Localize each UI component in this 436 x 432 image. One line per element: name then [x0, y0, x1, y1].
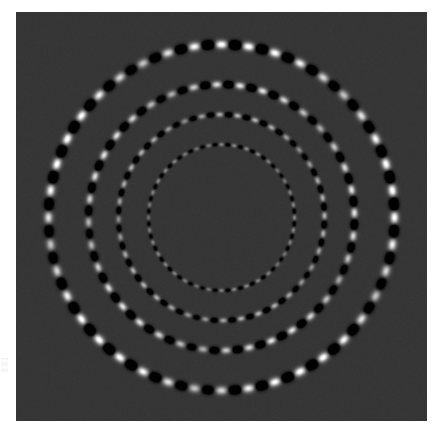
ring-pattern-canvas [16, 12, 427, 421]
diffraction-pattern-plot [16, 12, 427, 421]
edge-artifact-mark [1, 358, 8, 374]
figure-root [0, 0, 436, 432]
